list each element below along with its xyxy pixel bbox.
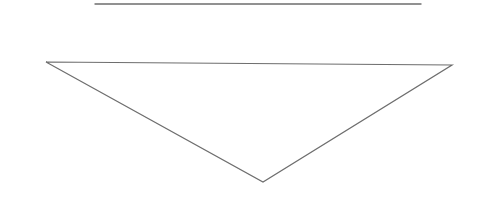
inverted-triangle — [46, 62, 452, 182]
diagram-canvas — [0, 0, 485, 198]
diagram-svg — [0, 0, 485, 198]
